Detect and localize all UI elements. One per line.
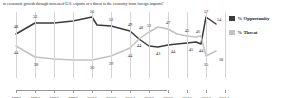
x-tick xyxy=(206,90,207,93)
x-axis-label: 1998 xyxy=(68,96,78,98)
chart-figure: to economic growth through increased U.S… xyxy=(0,0,285,98)
chart-legend: % Opportunity % Threat xyxy=(229,14,283,42)
x-axis-label: 2002 xyxy=(106,96,116,98)
x-tick xyxy=(111,90,112,93)
legend-label-threat: % Threat xyxy=(238,30,258,36)
x-axis-label: 1994 xyxy=(30,96,40,98)
data-label-opportunity: 44 xyxy=(171,49,176,54)
data-label-threat: 48 xyxy=(139,25,144,30)
gridline xyxy=(225,12,226,78)
x-axis-label: 2004 xyxy=(125,96,135,98)
data-label-opportunity: 53 xyxy=(33,14,38,19)
square-swatch-icon xyxy=(229,30,235,36)
gridline xyxy=(187,12,188,78)
x-tick xyxy=(149,90,150,93)
x-tick xyxy=(92,90,93,93)
x-axis-label: 1992 xyxy=(11,96,21,98)
data-label-opportunity: 44 xyxy=(199,48,204,53)
data-label-opportunity: 43 xyxy=(156,51,161,56)
gridline xyxy=(54,12,55,78)
data-label-opportunity: 44 xyxy=(137,43,142,48)
data-label-opportunity: 57 xyxy=(204,9,209,14)
x-tick xyxy=(54,90,55,93)
data-label-opportunity: 54 xyxy=(217,17,222,22)
gridline xyxy=(73,12,74,78)
series-lines xyxy=(8,12,226,78)
data-label-threat: 35 xyxy=(204,62,209,67)
x-tick xyxy=(187,90,188,93)
gridline xyxy=(206,12,207,78)
x-axis-label: 2012 xyxy=(201,96,211,98)
x-tick xyxy=(35,90,36,93)
data-label-threat: 38 xyxy=(34,62,39,67)
survey-question-text: to economic growth through increased U.S… xyxy=(3,0,282,8)
x-tick xyxy=(16,90,17,93)
x-axis-label: 2010 xyxy=(182,96,192,98)
x-axis-label: 2006 xyxy=(144,96,154,98)
x-tick xyxy=(73,90,74,93)
data-label-threat: 46 xyxy=(196,29,201,34)
data-label-opportunity: 56 xyxy=(90,9,95,14)
legend-item-opportunity[interactable]: % Opportunity xyxy=(229,14,283,23)
data-label-threat: 44 xyxy=(14,50,19,55)
data-label-threat: 45 xyxy=(185,28,190,33)
gridline xyxy=(35,12,36,78)
x-axis-label: 1996 xyxy=(49,96,59,98)
x-axis-label: 2014 xyxy=(219,96,229,98)
data-label-opportunity: 52 xyxy=(109,17,114,22)
x-axis-label: 2000 xyxy=(87,96,97,98)
plot-area: 48 53 56 52 49 44 43 44 45 44 57 54 44 3… xyxy=(8,12,226,78)
legend-label-opportunity: % Opportunity xyxy=(238,16,270,22)
data-label-opportunity: 48 xyxy=(14,24,19,29)
data-label-threat: 52 xyxy=(147,23,152,28)
data-label-threat: 36 xyxy=(90,65,95,70)
data-label-threat: 38 xyxy=(219,57,224,62)
square-swatch-icon xyxy=(229,16,235,22)
x-tick xyxy=(130,90,131,93)
data-label-opportunity: 49 xyxy=(128,22,133,27)
gridline xyxy=(16,12,17,78)
x-tick xyxy=(225,90,226,93)
gridline xyxy=(111,12,112,78)
x-axis-label: 2008 xyxy=(163,96,173,98)
data-label-threat: 39 xyxy=(109,61,114,66)
x-tick xyxy=(168,90,169,93)
data-label-threat: 44 xyxy=(128,53,133,58)
legend-item-threat[interactable]: % Threat xyxy=(229,28,283,37)
data-label-opportunity: 45 xyxy=(189,47,194,52)
data-label-threat: 47 xyxy=(166,20,171,25)
